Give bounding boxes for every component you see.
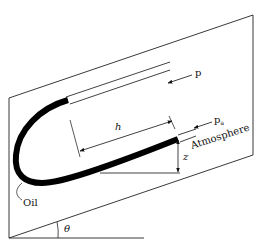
inclined-plane — [9, 15, 253, 238]
oil-pointer — [17, 183, 22, 200]
angle-arc — [57, 222, 58, 238]
pressure-p-label: p — [195, 67, 201, 78]
pressure-pa-arrow — [194, 122, 212, 128]
length-h-label: h — [115, 121, 121, 132]
manometer-diagram: θ p pa Atmosphere h z Oil — [0, 0, 263, 247]
pressure-pa-label: pa — [214, 114, 224, 126]
tube-upper-leg — [66, 62, 170, 104]
length-h-dimension — [70, 116, 175, 157]
height-z-label: z — [182, 151, 189, 162]
pressure-p-arrow — [168, 75, 192, 83]
angle-label: θ — [64, 223, 70, 234]
oil-label: Oil — [23, 197, 38, 208]
oil-column — [16, 100, 178, 183]
